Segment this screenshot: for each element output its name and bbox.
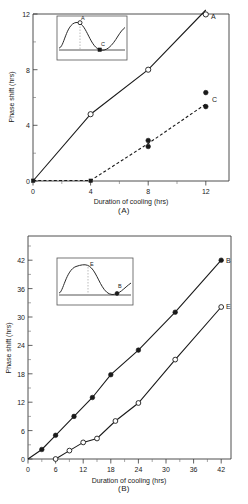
panel-b-xtick-24: 24 — [135, 466, 143, 473]
panel-b-series-B-label: B — [226, 257, 231, 264]
panel-b-point-E-32 — [173, 357, 178, 362]
panel-a-series-A-label: A — [211, 13, 216, 20]
panel-b-ytick-12: 12 — [17, 399, 25, 406]
panel-b-ytick-6: 6 — [21, 428, 25, 435]
panel-a-ytick-12: 12 — [22, 11, 30, 18]
panel-b: 0 6 12 18 24 30 36 42 — [0, 215, 248, 504]
panel-b-point-B-18 — [109, 372, 114, 377]
panel-a-inset-trough-label: C — [101, 41, 105, 47]
panel-b-ylabel: Phase shift (hrs) — [5, 323, 13, 374]
panel-a-ytick-0: 0 — [26, 178, 30, 185]
panel-a-x-axis: 0 4 8 12 — [31, 181, 210, 195]
panel-a-xtick-8: 8 — [146, 188, 150, 195]
panel-b-plot: 0 6 12 18 24 30 36 42 — [0, 215, 248, 504]
panel-a-xlabel: Duration of cooling (hrs) — [94, 198, 169, 206]
panel-a-xtick-0: 0 — [31, 188, 35, 195]
panel-a-y-axis: 0 4 8 12 — [22, 11, 37, 185]
panel-b-series-E: E — [53, 303, 231, 461]
panel-b-point-B-32 — [173, 310, 178, 315]
panel-a-point-C-8-low — [146, 144, 151, 149]
panel-b-xtick-18: 18 — [107, 466, 115, 473]
panel-b-ytick-42: 42 — [17, 257, 25, 264]
panel-a-ytick-4: 4 — [26, 122, 30, 129]
panel-b-point-E-15 — [95, 436, 100, 441]
panel-b-point-E-42 — [219, 305, 224, 310]
panel-b-xtick-0: 0 — [26, 466, 30, 473]
panel-b-point-E-20 — [113, 419, 118, 424]
panel-b-xtick-36: 36 — [190, 466, 198, 473]
panel-a-xtick-4: 4 — [89, 188, 93, 195]
panel-b-inset: E B — [57, 258, 133, 305]
panel-b-series-E-label: E — [226, 303, 231, 310]
panel-b-point-B-24 — [136, 348, 141, 353]
panel-b-point-B-3 — [40, 447, 45, 452]
panel-b-point-B-6 — [53, 433, 58, 438]
panel-b-xtick-42: 42 — [217, 466, 225, 473]
figure-container: 0 4 8 12 0 4 8 12 Duration of cooling — [0, 0, 248, 504]
panel-b-point-E-12 — [81, 440, 86, 445]
panel-b-point-B-14 — [90, 395, 95, 400]
panel-a-inset-peak-label: A — [81, 15, 85, 21]
panel-a-ylabel: Phase shift (hrs) — [8, 72, 16, 123]
panel-b-point-E-6 — [53, 457, 58, 462]
panel-b-ytick-18: 18 — [17, 371, 25, 378]
panel-a-series-C-label: C — [212, 96, 217, 103]
panel-b-ytick-0: 0 — [21, 456, 25, 463]
panel-a-point-A-8 — [146, 67, 151, 72]
panel-b-xtick-6: 6 — [54, 466, 58, 473]
panel-a-point-C-0 — [32, 179, 35, 182]
panel-a-point-A-12 — [203, 12, 208, 17]
panel-b-xtick-30: 30 — [162, 466, 170, 473]
panel-b-xtick-12: 12 — [79, 466, 87, 473]
panel-b-ytick-36: 36 — [17, 286, 25, 293]
panel-a-ytick-8: 8 — [26, 67, 30, 74]
panel-a-series-C: C — [32, 90, 218, 182]
panel-a-point-C-8-high — [146, 138, 151, 143]
panel-a-point-C-4 — [89, 179, 92, 182]
panel-a-xtick-12: 12 — [202, 188, 210, 195]
panel-b-inset-trough-label: B — [118, 283, 122, 289]
panel-a-caption: (A) — [0, 206, 248, 215]
panel-b-ytick-30: 30 — [17, 314, 25, 321]
panel-a-inset: A C — [57, 15, 127, 60]
panel-b-ytick-24: 24 — [17, 342, 25, 349]
panel-b-caption: (B) — [0, 484, 248, 493]
panel-b-point-B-42 — [219, 258, 224, 263]
panel-a-point-C-12-low — [204, 104, 209, 109]
panel-b-point-E-9 — [67, 448, 72, 453]
panel-a-point-A-4 — [88, 112, 93, 117]
panel-b-point-B-10 — [72, 414, 77, 419]
panel-b-point-E-24 — [136, 401, 141, 406]
panel-b-y-axis: 0 6 12 18 24 30 36 42 — [17, 246, 32, 463]
panel-b-inset-peak-label: E — [90, 261, 94, 267]
panel-a-point-C-12-high — [204, 90, 209, 95]
